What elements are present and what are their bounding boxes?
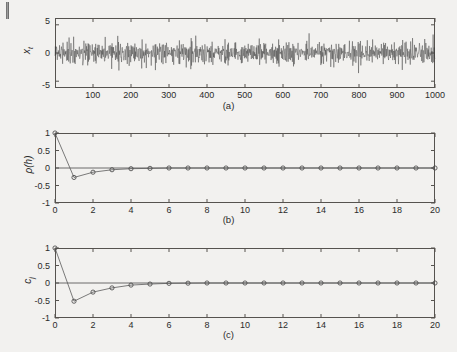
- panel-b-caption: (b): [0, 214, 457, 225]
- panel-c-xtick-8: 16: [354, 320, 364, 330]
- panel-a-xtick-2: 300: [161, 90, 176, 100]
- panel-a-series-svg: [55, 18, 435, 88]
- panel-c-xtick-2: 4: [128, 320, 133, 330]
- panel-b-ytick-0: 1: [28, 128, 50, 138]
- panel-a-xtick-9: 1000: [425, 90, 445, 100]
- panel-a-ytick-1: 0: [30, 48, 50, 58]
- panel-b-theoretical-acf: ρ(h) 1 0.5 0 -0.5 -1 (b) 024681012141618…: [0, 115, 457, 232]
- panel-a-ytick-2: -5: [28, 80, 50, 90]
- panel-c-xtick-7: 14: [316, 320, 326, 330]
- panel-c-ytick-3: -0.5: [20, 296, 50, 306]
- panel-b-xtick-8: 16: [354, 205, 364, 215]
- panel-c-xtick-4: 8: [204, 320, 209, 330]
- panel-b-series-svg: [55, 133, 435, 203]
- panel-c-xtick-9: 18: [392, 320, 402, 330]
- panel-b-xtick-9: 18: [392, 205, 402, 215]
- panel-a-xtick-4: 500: [237, 90, 252, 100]
- panel-a-xtick-1: 200: [123, 90, 138, 100]
- panel-c-xtick-5: 10: [240, 320, 250, 330]
- panel-a-caption: (a): [0, 100, 457, 111]
- panel-a-timeseries: xt 5 0 -5 (a) 10020030040050060070080090…: [0, 0, 457, 118]
- panel-b-xtick-6: 12: [278, 205, 288, 215]
- panel-b-ytick-2: 0: [28, 163, 50, 173]
- panel-c-sample-acf: cj 1 0.5 0 -0.5 -1 (c) 02468101214161820: [0, 230, 457, 352]
- panel-b-xtick-3: 6: [166, 205, 171, 215]
- panel-c-caption: (c): [0, 329, 457, 340]
- panel-a-xtick-7: 800: [351, 90, 366, 100]
- panel-c-xtick-0: 0: [52, 320, 57, 330]
- panel-a-xtick-8: 900: [389, 90, 404, 100]
- panel-b-xtick-4: 8: [204, 205, 209, 215]
- panel-b-xtick-0: 0: [52, 205, 57, 215]
- panel-b-xtick-5: 10: [240, 205, 250, 215]
- panel-b-ytick-1: 0.5: [22, 146, 50, 156]
- panel-c-xtick-1: 2: [90, 320, 95, 330]
- panel-b-xtick-10: 20: [430, 205, 440, 215]
- panel-c-series-svg: [55, 248, 435, 318]
- panel-c-xtick-6: 12: [278, 320, 288, 330]
- panel-c-ytick-4: -1: [26, 313, 50, 323]
- panel-b-xtick-2: 4: [128, 205, 133, 215]
- panel-b-ytick-4: -1: [26, 198, 50, 208]
- panel-c-xtick-3: 6: [166, 320, 171, 330]
- panel-c-ytick-0: 1: [28, 243, 50, 253]
- panel-a-ytick-0: 5: [30, 16, 50, 26]
- panel-c-ytick-1: 0.5: [22, 261, 50, 271]
- panel-a-xtick-5: 600: [275, 90, 290, 100]
- panel-c-ytick-2: 0: [28, 278, 50, 288]
- panel-c-xtick-10: 20: [430, 320, 440, 330]
- panel-b-xtick-1: 2: [90, 205, 95, 215]
- panel-a-xtick-3: 400: [199, 90, 214, 100]
- panel-b-ytick-3: -0.5: [20, 181, 50, 191]
- panel-a-xtick-0: 100: [85, 90, 100, 100]
- panel-b-xtick-7: 14: [316, 205, 326, 215]
- panel-a-xtick-6: 700: [313, 90, 328, 100]
